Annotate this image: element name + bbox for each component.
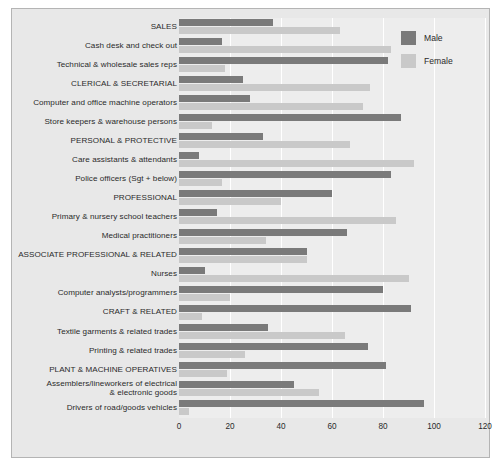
bar-male[interactable] [179, 324, 268, 331]
bar-group [179, 170, 481, 189]
bar-group [179, 380, 481, 399]
chart-row: Printing & related trades [12, 342, 489, 361]
bar-male[interactable] [179, 76, 243, 83]
bar-male[interactable] [179, 286, 383, 293]
chart-row: PERSONAL & PROTECTIVE [12, 132, 489, 151]
chart-row: CRAFT & RELATED [12, 304, 489, 323]
bar-female[interactable] [179, 237, 266, 244]
chart-row: Store keepers & warehouse persons [12, 113, 489, 132]
bar-female[interactable] [179, 313, 202, 320]
bar-group [179, 342, 481, 361]
category-label: Nurses [0, 269, 177, 279]
legend-swatch-icon [401, 31, 416, 45]
bar-male[interactable] [179, 19, 273, 26]
bar-male[interactable] [179, 343, 368, 350]
bar-male[interactable] [179, 57, 388, 64]
x-tick-label: 0 [177, 422, 182, 431]
bar-group [179, 247, 481, 266]
bar-group [179, 323, 481, 342]
category-label: Cash desk and check out [0, 41, 177, 51]
chart-row: PLANT & MACHINE OPERATIVES [12, 361, 489, 380]
bar-female[interactable] [179, 256, 307, 263]
chart-row: Care assistants & attendants [12, 151, 489, 170]
bar-female[interactable] [179, 84, 370, 91]
chart-row: Assemblers/lineworkers of electrical & e… [12, 380, 489, 399]
legend-item-male[interactable]: Male [401, 31, 485, 45]
bar-male[interactable] [179, 152, 199, 159]
bar-female[interactable] [179, 179, 222, 186]
bar-group [179, 75, 481, 94]
category-label: CLERICAL & SECRETARIAL [0, 79, 177, 89]
bar-group [179, 189, 481, 208]
legend-swatch-icon [401, 54, 416, 68]
x-tick-label: 20 [225, 422, 234, 431]
x-tick-label: 60 [327, 422, 336, 431]
chart-row: Textile garments & related trades [12, 323, 489, 342]
bar-group [179, 208, 481, 227]
category-label: Store keepers & warehouse persons [0, 117, 177, 127]
x-axis: 020406080100120 [179, 418, 485, 440]
bar-male[interactable] [179, 248, 307, 255]
bar-female[interactable] [179, 46, 391, 53]
bar-group [179, 361, 481, 380]
bar-female[interactable] [179, 389, 319, 396]
chart-row: Medical practitioners [12, 228, 489, 247]
chart-row: Nurses [12, 266, 489, 285]
category-label: CRAFT & RELATED [0, 307, 177, 317]
bar-male[interactable] [179, 400, 424, 407]
category-label: PLANT & MACHINE OPERATIVES [0, 365, 177, 375]
bar-group [179, 228, 481, 247]
bar-female[interactable] [179, 160, 414, 167]
bar-female[interactable] [179, 65, 225, 72]
bar-male[interactable] [179, 95, 250, 102]
legend-label: Female [424, 56, 453, 66]
bar-male[interactable] [179, 133, 263, 140]
category-label: Textile garments & related trades [0, 327, 177, 337]
bar-female[interactable] [179, 275, 409, 282]
bar-female[interactable] [179, 351, 245, 358]
bar-male[interactable] [179, 171, 391, 178]
bar-male[interactable] [179, 38, 222, 45]
bar-male[interactable] [179, 114, 401, 121]
bar-rows: SALESCash desk and check outTechnical & … [12, 18, 489, 418]
bar-female[interactable] [179, 370, 227, 377]
chart-row: ASSOCIATE PROFESSIONAL & RELATED [12, 247, 489, 266]
bar-female[interactable] [179, 332, 345, 339]
bar-group [179, 399, 481, 418]
bar-female[interactable] [179, 294, 230, 301]
chart-row: CLERICAL & SECRETARIAL [12, 75, 489, 94]
bar-female[interactable] [179, 217, 396, 224]
bar-male[interactable] [179, 267, 205, 274]
bar-male[interactable] [179, 209, 217, 216]
bar-female[interactable] [179, 27, 340, 34]
bar-group [179, 151, 481, 170]
chart-row: Computer and office machine operators [12, 94, 489, 113]
bar-male[interactable] [179, 381, 294, 388]
bar-male[interactable] [179, 305, 411, 312]
bar-female[interactable] [179, 198, 281, 205]
bar-female[interactable] [179, 408, 189, 415]
bar-group [179, 266, 481, 285]
bar-group [179, 304, 481, 323]
chart-row: Police officers (Sgt + below) [12, 170, 489, 189]
bar-male[interactable] [179, 229, 347, 236]
bar-female[interactable] [179, 141, 350, 148]
x-tick-label: 40 [276, 422, 285, 431]
category-label: Technical & wholesale sales reps [0, 60, 177, 70]
category-label: Computer and office machine operators [0, 98, 177, 108]
category-label: Drivers of road/goods vehicles [0, 403, 177, 413]
category-label: Primary & nursery school teachers [0, 212, 177, 222]
bar-group [179, 94, 481, 113]
bar-male[interactable] [179, 190, 332, 197]
x-tick-label: 120 [478, 422, 492, 431]
bar-female[interactable] [179, 103, 363, 110]
category-label: PERSONAL & PROTECTIVE [0, 136, 177, 146]
x-tick-label: 80 [378, 422, 387, 431]
legend-item-female[interactable]: Female [401, 54, 485, 68]
plot-area: SALESCash desk and check outTechnical & … [12, 9, 489, 457]
legend-label: Male [424, 33, 443, 43]
bar-group [179, 132, 481, 151]
bar-group [179, 285, 481, 304]
bar-female[interactable] [179, 122, 212, 129]
bar-male[interactable] [179, 362, 386, 369]
